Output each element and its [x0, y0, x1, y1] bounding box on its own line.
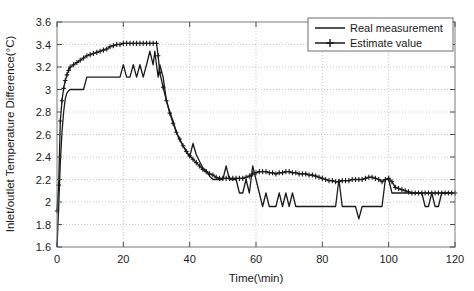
y-axis-tick-labels: 1.61.822.22.42.62.833.23.43.6	[36, 16, 51, 253]
legend-label-estimate-value: Estimate value	[350, 37, 422, 49]
x-tick-label: 100	[379, 253, 397, 265]
y-tick-label: 3.4	[36, 39, 51, 51]
x-tick-label: 80	[316, 253, 328, 265]
y-tick-label: 2.2	[36, 174, 51, 186]
y-tick-label: 2.8	[36, 106, 51, 118]
y-tick-label: 3.6	[36, 16, 51, 28]
y-tick-label: 1.6	[36, 241, 51, 253]
y-tick-label: 2	[45, 196, 51, 208]
chart-legend[interactable]: Real measurement Estimate value	[308, 18, 453, 51]
x-tick-label: 60	[250, 253, 262, 265]
x-tick-label: 40	[184, 253, 196, 265]
x-axis-title: Time(\min)	[229, 272, 284, 284]
chart-canvas: 020406080100120 1.61.822.22.42.62.833.23…	[0, 0, 474, 291]
x-tick-label: 0	[54, 253, 60, 265]
y-tick-label: 3.2	[36, 61, 51, 73]
legend-label-real-measurement: Real measurement	[350, 22, 443, 34]
y-tick-label: 2.6	[36, 129, 51, 141]
y-axis-title: Inlet/outlet Temperature Difference(°C)	[4, 36, 16, 233]
y-tick-label: 1.8	[36, 219, 51, 231]
y-tick-label: 2.4	[36, 151, 51, 163]
x-tick-label: 120	[446, 253, 464, 265]
chart-figure: 020406080100120 1.61.822.22.42.62.833.23…	[0, 0, 474, 291]
x-tick-label: 20	[117, 253, 129, 265]
y-tick-label: 3	[45, 84, 51, 96]
x-axis-tick-labels: 020406080100120	[54, 253, 464, 265]
